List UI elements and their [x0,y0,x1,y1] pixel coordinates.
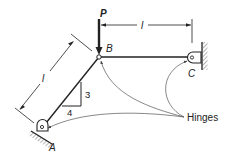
truss-diagram: P B C A l l 3 4 Hi [0,0,231,160]
dim-diagonal-label: l [42,73,45,84]
hinges-label: Hinges [187,112,218,123]
joint-a-label: A [48,142,56,153]
load-arrow-icon [96,19,103,55]
slope-triangle [62,82,81,106]
dim-horizontal-label: l [141,20,144,31]
load-label: P [100,8,107,19]
slope-rise-label: 3 [85,89,90,100]
joint-b-label: B [106,43,113,54]
joint-c-label: C [188,68,196,79]
hinge-b-icon [97,55,101,59]
dimension-diagonal [15,34,92,123]
slope-run-label: 4 [67,107,72,118]
pin-support-c-icon [188,42,208,70]
dimension-horizontal [101,19,192,43]
